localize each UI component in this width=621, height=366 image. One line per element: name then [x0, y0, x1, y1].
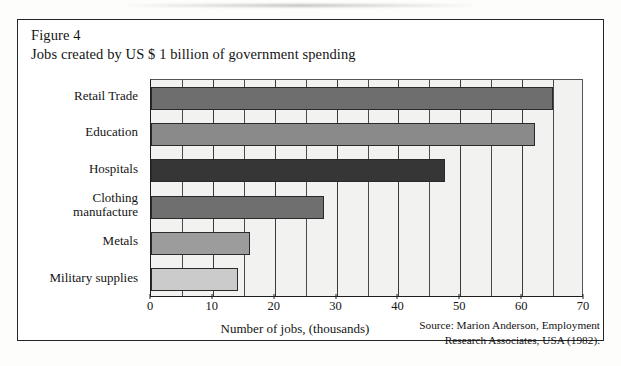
- figure-title-block: Figure 4 Jobs created by US $ 1 billion …: [31, 26, 356, 64]
- x-tick-label-0: 0: [147, 299, 153, 314]
- category-label-education: Education: [85, 125, 138, 140]
- category-label-line: manufacture: [73, 205, 138, 220]
- category-label-line: Hospitals: [89, 162, 138, 177]
- gridline-40: [398, 80, 399, 296]
- plot-area: [150, 79, 583, 297]
- x-tick-label-30: 30: [329, 299, 342, 314]
- gridline-65: [553, 80, 554, 296]
- figure-title: Jobs created by US $ 1 billion of govern…: [31, 45, 356, 64]
- gridline-60: [522, 80, 523, 296]
- category-axis-labels: Retail TradeEducationHospitalsClothingma…: [0, 79, 144, 297]
- gridline-50: [460, 80, 461, 296]
- x-axis-ticks: 010203040506070: [150, 299, 583, 317]
- source-note: Source: Marion Anderson, Employment Rese…: [385, 318, 600, 347]
- gridline-25: [306, 80, 307, 296]
- gridline-10: [213, 80, 214, 296]
- gridline-15: [244, 80, 245, 296]
- category-label-clothing-manufacture: Clothingmanufacture: [73, 191, 138, 220]
- gridline-35: [368, 80, 369, 296]
- bar-clothing-manufacture: [151, 196, 324, 219]
- source-line-2: Research Associates, USA (1982).: [385, 333, 600, 348]
- gridline-20: [275, 80, 276, 296]
- gridline-30: [337, 80, 338, 296]
- bar-retail-trade: [151, 87, 553, 110]
- bar-hospitals: [151, 159, 445, 182]
- gridline-55: [491, 80, 492, 296]
- scanned-page: Figure 4 Jobs created by US $ 1 billion …: [0, 0, 621, 366]
- category-label-line: Military supplies: [50, 271, 138, 286]
- category-label-line: Clothing: [73, 191, 138, 206]
- x-tick-label-70: 70: [577, 299, 590, 314]
- bar-military-supplies: [151, 268, 238, 291]
- source-line-1: Source: Marion Anderson, Employment: [385, 318, 600, 333]
- x-tick-label-40: 40: [391, 299, 404, 314]
- bar-education: [151, 123, 535, 146]
- gridline-5: [182, 80, 183, 296]
- category-label-line: Metals: [103, 234, 138, 249]
- figure-label: Figure 4: [31, 26, 356, 45]
- x-tick-label-10: 10: [206, 299, 219, 314]
- x-tick-label-20: 20: [267, 299, 280, 314]
- x-tick-label-50: 50: [453, 299, 466, 314]
- x-tick-label-60: 60: [515, 299, 528, 314]
- category-label-line: Education: [85, 125, 138, 140]
- scan-artifact: [120, 4, 480, 7]
- category-label-metals: Metals: [103, 234, 138, 249]
- category-label-hospitals: Hospitals: [89, 162, 138, 177]
- gridline-45: [429, 80, 430, 296]
- category-label-line: Retail Trade: [74, 89, 138, 104]
- category-label-retail-trade: Retail Trade: [74, 89, 138, 104]
- category-label-military-supplies: Military supplies: [50, 271, 138, 286]
- bar-metals: [151, 232, 250, 255]
